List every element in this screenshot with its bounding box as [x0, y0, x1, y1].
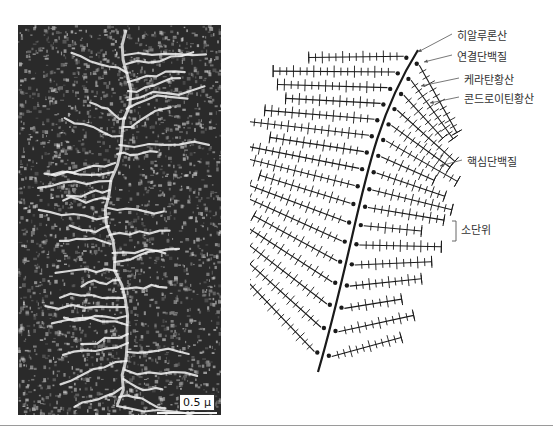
label-core-protein: 핵심단백질 [467, 153, 517, 169]
label-link-protein: 연결단백질 [457, 48, 507, 64]
scale-bar-line [157, 412, 217, 414]
subunit-branches [250, 51, 462, 359]
label-keratan-sulfate: 케라탄황산 [464, 71, 514, 87]
micrograph-image [18, 25, 221, 415]
bottom-divider [0, 425, 553, 426]
label-hyaluronic-acid: 히알루론산 [457, 27, 507, 43]
electron-micrograph: 0.5 μ [18, 25, 221, 415]
label-subunit: 소단위 [461, 221, 491, 237]
label-chondroitin-sulfate: 콘드로이틴황산 [464, 90, 534, 106]
scale-bar-label: 0.5 μ [179, 394, 215, 411]
